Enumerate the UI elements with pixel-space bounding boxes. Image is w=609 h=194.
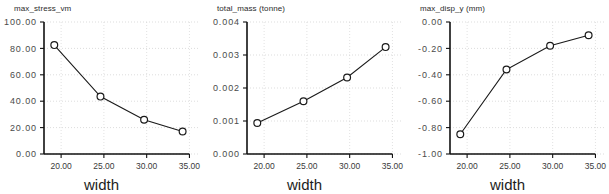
y-tick-label: 0.003 — [213, 50, 240, 60]
x-tick-label: 30.00 — [542, 161, 564, 171]
y-tick-label: 0.004 — [213, 17, 240, 27]
plot-area-max-disp-y: -1.00-0.80-0.60-0.40-0.200.0020.0025.003… — [406, 0, 609, 194]
x-tick-label: 35.00 — [382, 161, 404, 171]
y-tick-label: 0.00 — [422, 17, 443, 27]
y-tick-label: 60.00 — [10, 70, 37, 80]
x-tick-label: 25.00 — [499, 161, 521, 171]
x-tick-label: 25.00 — [93, 161, 115, 171]
data-point-marker — [503, 66, 510, 73]
y-tick-label: 100.00 — [4, 17, 37, 27]
data-point-marker — [141, 116, 148, 123]
x-tick-label: 35.00 — [585, 161, 607, 171]
plot-area-max-stress-vm: 0.0020.0040.0060.0080.00100.0020.0025.00… — [0, 0, 203, 194]
data-point-marker — [585, 32, 592, 39]
y-tick-label: -1.00 — [418, 149, 443, 159]
data-point-marker — [51, 42, 58, 49]
data-point-marker — [382, 44, 389, 51]
x-tick-label: 30.00 — [136, 161, 158, 171]
plot-area-total-mass: 0.0000.0010.0020.0030.00420.0025.0030.00… — [203, 0, 406, 194]
series-line — [257, 47, 385, 123]
x-tick-label: 25.00 — [296, 161, 318, 171]
x-axis-title: width — [203, 176, 406, 193]
y-tick-label: 80.00 — [10, 44, 37, 54]
data-point-marker — [300, 98, 307, 105]
y-tick-label: 0.00 — [16, 149, 37, 159]
chart-panel-max-disp-y: max_disp_y (mm) -1.00-0.80-0.60-0.40-0.2… — [406, 0, 609, 194]
series-line — [460, 35, 588, 134]
chart-panel-total-mass: total_mass (tonne) 0.0000.0010.0020.0030… — [203, 0, 406, 194]
y-tick-label: -0.40 — [418, 70, 443, 80]
y-tick-label: 0.000 — [213, 149, 240, 159]
x-tick-label: 20.00 — [253, 161, 275, 171]
data-point-marker — [457, 131, 464, 138]
y-tick-label: 0.002 — [213, 83, 240, 93]
data-point-marker — [344, 74, 351, 81]
y-tick-label: 20.00 — [10, 123, 37, 133]
x-tick-label: 30.00 — [339, 161, 361, 171]
x-axis-title: width — [406, 176, 609, 193]
x-tick-label: 35.00 — [179, 161, 201, 171]
chart-panel-row: max_stress_vm 0.0020.0040.0060.0080.0010… — [0, 0, 609, 194]
data-point-marker — [179, 128, 186, 135]
chart-panel-max-stress-vm: max_stress_vm 0.0020.0040.0060.0080.0010… — [0, 0, 203, 194]
x-tick-label: 20.00 — [456, 161, 478, 171]
x-tick-label: 20.00 — [50, 161, 72, 171]
y-tick-label: 0.001 — [213, 116, 240, 126]
y-tick-label: -0.80 — [418, 123, 443, 133]
x-axis-title: width — [0, 176, 203, 193]
data-point-marker — [254, 120, 261, 127]
data-point-marker — [97, 93, 104, 100]
series-line — [54, 45, 182, 131]
y-tick-label: -0.20 — [418, 44, 443, 54]
y-tick-label: 40.00 — [10, 96, 37, 106]
y-tick-label: -0.60 — [418, 96, 443, 106]
data-point-marker — [547, 42, 554, 49]
